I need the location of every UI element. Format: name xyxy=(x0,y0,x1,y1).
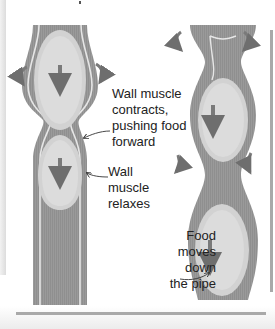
curved-arrow-icon xyxy=(248,153,251,172)
curved-arrow-icon xyxy=(177,32,182,50)
curved-arrow-icon xyxy=(176,155,179,172)
label-food-moves: Food moves down the pipe xyxy=(158,228,216,292)
label-wall-relaxes: Wall muscle relaxes xyxy=(108,164,150,212)
label-wall-contracts: Wall muscle contracts, pushing food forw… xyxy=(112,86,186,150)
diagram-panel: Wall muscle contracts, pushing food forw… xyxy=(0,0,275,329)
left-tube xyxy=(21,25,103,305)
pointer-contracts xyxy=(84,131,110,138)
pointer-relaxes xyxy=(87,173,108,177)
